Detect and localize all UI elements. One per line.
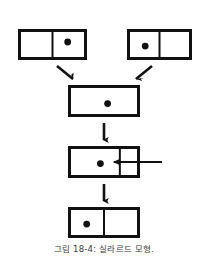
merged-chamber-no-divider-outline — [70, 87, 139, 116]
merged-chamber-no-divider-particle — [104, 100, 111, 107]
chamber-with-piston-particle — [97, 160, 104, 167]
top-right-chamber-particle — [142, 43, 149, 50]
figure-caption: 그림 18-4: 실라르드 모형. — [0, 243, 208, 255]
diagonal-arrow-from-top-left — [57, 66, 73, 79]
top-right-chamber — [129, 31, 191, 59]
final-chamber-particle — [83, 221, 90, 228]
diagonal-arrow-from-top-right — [136, 66, 152, 79]
top-left-chamber — [20, 31, 86, 59]
top-left-chamber-particle — [64, 39, 71, 46]
final-chamber — [70, 209, 139, 237]
merged-chamber-no-divider — [70, 87, 139, 116]
figure-container: 그림 18-4: 실라르드 모형. — [0, 0, 208, 268]
szilard-engine-diagram — [0, 0, 208, 268]
